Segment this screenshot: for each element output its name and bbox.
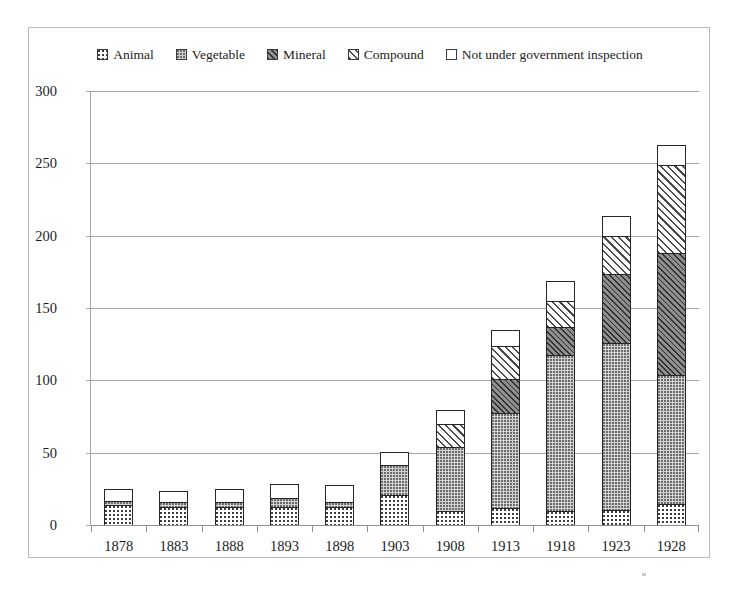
bar-stack-1918[interactable]: [546, 281, 575, 525]
bar-slot: [367, 91, 422, 525]
bar-slot: [588, 91, 643, 525]
bar-segment: [160, 492, 187, 504]
legend-item-not-inspected[interactable]: Not under government inspection: [446, 48, 643, 62]
bar-segment: [160, 508, 187, 525]
x-axis-tick-label: 1883: [146, 539, 201, 554]
legend-item-vegetable[interactable]: Vegetable: [176, 48, 245, 62]
bar-stack-1883[interactable]: [159, 491, 188, 525]
x-axis-tick: [91, 525, 146, 533]
bar-stack-1908[interactable]: [436, 410, 465, 525]
page-speck: [642, 573, 646, 576]
bar-segment: [547, 356, 574, 512]
legend-label-not-inspected: Not under government inspection: [462, 48, 643, 62]
x-axis-tick-end: [698, 525, 699, 532]
bar-segment: [658, 146, 685, 166]
x-axis-tick-mark: [423, 525, 424, 532]
bar-slot: [478, 91, 533, 525]
bar-segment: [547, 512, 574, 525]
bar-segment: [658, 166, 685, 254]
legend-swatch-animal-icon: [97, 49, 108, 60]
bar-slot: [423, 91, 478, 525]
x-axis-tick: [478, 525, 533, 533]
x-axis-tick-mark: [588, 525, 589, 532]
x-axis-tick-label: 1888: [202, 539, 257, 554]
x-axis-tick: [367, 525, 422, 533]
x-axis-ticks: [91, 525, 699, 533]
chart-frame: Animal Vegetable Mineral Compound Not un…: [28, 27, 710, 558]
bar-stack-1898[interactable]: [325, 485, 354, 525]
x-axis-tick-label: 1878: [91, 539, 146, 554]
legend-label-animal: Animal: [113, 48, 154, 62]
x-axis-tick-label: 1903: [367, 539, 422, 554]
y-axis-tick-label: 300: [0, 84, 57, 99]
x-axis-tick-mark: [478, 525, 479, 532]
x-axis-tick-label: 1908: [423, 539, 478, 554]
y-axis-tick-label: 100: [0, 373, 57, 388]
bar-segment: [492, 414, 519, 509]
bar-slot: [257, 91, 312, 525]
bar-segment: [381, 496, 408, 525]
legend-label-compound: Compound: [364, 48, 424, 62]
x-axis-tick-label: 1923: [588, 539, 643, 554]
bar-segment: [603, 511, 630, 525]
bar-segment: [547, 328, 574, 355]
bar-stack-1888[interactable]: [215, 489, 244, 525]
bar-segment: [216, 508, 243, 525]
x-axis-tick: [588, 525, 643, 533]
x-axis-tick-label: 1893: [257, 539, 312, 554]
bar-stack-1923[interactable]: [602, 216, 631, 525]
bar-segment: [271, 508, 298, 525]
y-axis-tick-label: 200: [0, 228, 57, 243]
x-axis-tick-mark: [146, 525, 147, 532]
bar-segment: [216, 490, 243, 503]
bar-segment: [271, 485, 298, 499]
legend-label-mineral: Mineral: [283, 48, 326, 62]
bar-segment: [658, 254, 685, 376]
legend-item-mineral[interactable]: Mineral: [267, 48, 326, 62]
bar-segment: [603, 344, 630, 510]
bar-stack-1893[interactable]: [270, 484, 299, 525]
y-axis-tick-label: 250: [0, 156, 57, 171]
bar-segment: [437, 448, 464, 512]
bar-segment: [603, 275, 630, 344]
legend-swatch-compound-icon: [348, 49, 359, 60]
bar-slot: [533, 91, 588, 525]
x-axis-tick-labels: 1878188318881893189819031908191319181923…: [91, 539, 699, 554]
bar-segment: [603, 217, 630, 237]
bar-segment: [492, 509, 519, 525]
x-axis-tick-mark: [644, 525, 645, 532]
legend-swatch-mineral-icon: [267, 49, 278, 60]
plot-area: 300250200150100500: [91, 91, 699, 525]
x-axis-tick-mark: [91, 525, 92, 532]
bar-slot: [91, 91, 146, 525]
bar-segment: [603, 237, 630, 275]
x-axis-tick: [202, 525, 257, 533]
x-axis-tick: [312, 525, 367, 533]
x-axis-tick: [533, 525, 588, 533]
bar-slot: [644, 91, 699, 525]
bar-segment: [492, 331, 519, 347]
bar-stack-1903[interactable]: [380, 452, 409, 525]
legend-item-compound[interactable]: Compound: [348, 48, 424, 62]
x-axis-tick: [146, 525, 201, 533]
x-axis-tick-label: 1913: [478, 539, 533, 554]
bar-segment: [547, 282, 574, 302]
bar-segment: [105, 506, 132, 525]
x-axis-tick: [257, 525, 312, 533]
bar-segment: [437, 425, 464, 448]
legend-item-animal[interactable]: Animal: [97, 48, 154, 62]
y-axis-tick-label: 0: [0, 518, 57, 533]
bar-segment: [326, 486, 353, 503]
x-axis-tick: [423, 525, 478, 533]
x-axis-tick-label: 1928: [644, 539, 699, 554]
x-axis-tick-label: 1918: [533, 539, 588, 554]
x-axis-tick-label: 1898: [312, 539, 367, 554]
legend-swatch-not-inspected-icon: [446, 49, 457, 60]
x-axis-tick-mark: [533, 525, 534, 532]
bar-stack-1913[interactable]: [491, 330, 520, 525]
bar-series-container: [91, 91, 699, 525]
bar-stack-1878[interactable]: [104, 489, 133, 525]
bar-stack-1928[interactable]: [657, 145, 686, 525]
x-axis-tick-mark: [202, 525, 203, 532]
bar-segment: [492, 347, 519, 380]
